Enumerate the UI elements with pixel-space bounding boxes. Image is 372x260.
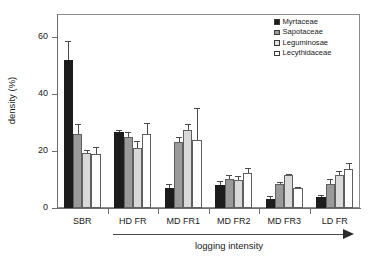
error-bar-cap xyxy=(116,130,122,131)
bar-hd-fr-leguminosae xyxy=(133,148,142,208)
x-axis-tick xyxy=(310,209,311,214)
bar-md-fr1-lecythidaceae xyxy=(192,140,201,208)
error-bar-cap xyxy=(346,163,352,164)
error-bar-cap xyxy=(217,181,223,182)
error-bar-cap xyxy=(226,175,232,176)
bar-sbr-myrtaceae xyxy=(64,60,73,208)
bar-md-fr2-lecythidaceae xyxy=(243,173,252,208)
bar-ld-fr-lecythidaceae xyxy=(344,169,353,208)
bar-sbr-leguminosae xyxy=(82,153,91,208)
legend-item-lecythidaceae[interactable]: Lecythidaceae xyxy=(274,48,360,58)
legend-swatch-icon xyxy=(274,51,280,57)
y-axis-tick xyxy=(52,37,57,38)
legend-item-label: Sapotaceae xyxy=(283,27,324,37)
y-axis-tick xyxy=(52,94,57,95)
bar-sbr-sapotaceae xyxy=(73,134,82,208)
bar-ld-fr-myrtaceae xyxy=(316,197,325,208)
bar-md-fr3-leguminosae xyxy=(284,175,293,208)
legend-item-myrtaceae[interactable]: Myrtaceae xyxy=(274,17,360,27)
error-bar-cap xyxy=(194,108,200,109)
x-axis-group-label: LD FR xyxy=(305,216,365,226)
x-axis-tick xyxy=(259,209,260,214)
bar-ld-fr-leguminosae xyxy=(335,175,344,208)
bar-ld-fr-sapotaceae xyxy=(326,184,335,208)
error-bar-cap xyxy=(176,137,182,138)
error-bar-cap xyxy=(166,184,172,185)
error-bar-cap xyxy=(65,41,71,42)
error-bar-cap xyxy=(295,187,301,188)
x-axis-tick xyxy=(108,209,109,214)
error-bar-cap xyxy=(336,171,342,172)
error-bar-cap xyxy=(277,182,283,183)
legend-item-label: Myrtaceae xyxy=(283,17,318,27)
error-bar-stem xyxy=(137,141,138,148)
legend-item-leguminosae[interactable]: Leguminosae xyxy=(274,38,360,48)
error-bar-stem xyxy=(96,147,97,154)
error-bar-stem xyxy=(68,41,69,60)
error-bar-stem xyxy=(78,124,79,134)
error-bar-cap xyxy=(235,176,241,177)
legend-item-label: Leguminosae xyxy=(283,38,329,48)
bar-md-fr1-leguminosae xyxy=(183,130,192,208)
bar-chart-figure: 0204060 density (%) MyrtaceaeSapotaceaeL… xyxy=(0,0,372,260)
bar-hd-fr-sapotaceae xyxy=(124,137,133,208)
x-axis-tick xyxy=(158,209,159,214)
legend-swatch-icon xyxy=(274,30,280,36)
logging-intensity-label: logging intensity xyxy=(113,240,345,251)
bar-md-fr1-myrtaceae xyxy=(165,188,174,208)
logging-intensity-arrow-line xyxy=(113,234,345,235)
error-bar-stem xyxy=(147,123,148,134)
error-bar-cap xyxy=(84,150,90,151)
bar-hd-fr-myrtaceae xyxy=(114,132,123,208)
x-axis-tick xyxy=(209,209,210,214)
legend: MyrtaceaeSapotaceaeLeguminosaeLecythidac… xyxy=(274,17,360,59)
bar-hd-fr-lecythidaceae xyxy=(142,134,151,208)
error-bar-cap xyxy=(318,195,324,196)
y-axis-tick xyxy=(52,151,57,152)
error-bar-cap xyxy=(125,132,131,133)
bar-md-fr3-lecythidaceae xyxy=(293,188,302,208)
error-bar-cap xyxy=(327,179,333,180)
bar-md-fr2-myrtaceae xyxy=(215,185,224,208)
legend-item-sapotaceae[interactable]: Sapotaceae xyxy=(274,27,360,37)
bar-md-fr3-myrtaceae xyxy=(266,199,275,208)
bar-sbr-lecythidaceae xyxy=(91,154,100,208)
legend-item-label: Lecythidaceae xyxy=(283,48,332,58)
y-axis-tick xyxy=(52,208,57,209)
legend-swatch-icon xyxy=(274,40,280,46)
bar-md-fr1-sapotaceae xyxy=(174,142,183,208)
error-bar-cap xyxy=(144,123,150,124)
bar-md-fr2-sapotaceae xyxy=(225,179,234,208)
error-bar-cap xyxy=(93,147,99,148)
legend-swatch-icon xyxy=(274,19,280,25)
error-bar-stem xyxy=(197,108,198,140)
error-bar-cap xyxy=(267,196,273,197)
error-bar-cap xyxy=(134,141,140,142)
bar-md-fr3-sapotaceae xyxy=(275,184,284,208)
error-bar-cap xyxy=(245,168,251,169)
error-bar-cap xyxy=(185,124,191,125)
error-bar-cap xyxy=(286,174,292,175)
bar-md-fr2-leguminosae xyxy=(234,180,243,208)
error-bar-cap xyxy=(75,124,81,125)
logging-intensity-arrow-head xyxy=(343,229,354,239)
